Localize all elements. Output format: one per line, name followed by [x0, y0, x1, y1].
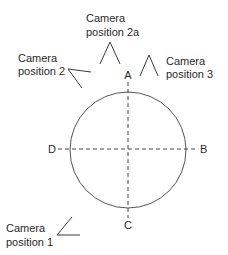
- camera-3-label-line2: position 3: [166, 68, 213, 80]
- axis-label-c: C: [124, 219, 132, 231]
- camera-position-2: Camera position 2: [18, 52, 91, 88]
- camera-1-label-line1: Camera: [6, 222, 46, 234]
- camera-position-3: Camera position 3: [140, 55, 213, 80]
- camera-position-2a: Camera position 2a: [86, 12, 140, 64]
- axis-label-b: B: [200, 143, 207, 155]
- camera-2-label-line2: position 2: [18, 65, 65, 77]
- camera-3-label-line1: Camera: [166, 55, 206, 67]
- camera-position-1: Camera position 1: [6, 217, 80, 248]
- camera-angle-icon: [100, 42, 120, 64]
- camera-angle-icon: [68, 69, 91, 88]
- axis-label-a: A: [124, 69, 132, 81]
- camera-position-diagram: A B C D Camera position 2a Camera positi…: [0, 0, 228, 255]
- camera-angle-icon: [140, 55, 158, 76]
- axis-label-d: D: [48, 143, 56, 155]
- camera-1-label-line2: position 1: [6, 236, 53, 248]
- camera-angle-icon: [57, 217, 80, 235]
- camera-2a-label-line2: position 2a: [86, 26, 140, 38]
- camera-2-label-line1: Camera: [18, 52, 58, 64]
- camera-2a-label-line1: Camera: [86, 12, 126, 24]
